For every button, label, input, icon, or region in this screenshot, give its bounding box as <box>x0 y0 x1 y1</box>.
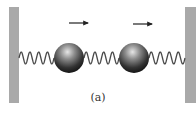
spring-left <box>19 52 54 64</box>
right-wall <box>185 7 196 103</box>
velocity-arrows <box>69 23 152 24</box>
mass-2 <box>119 43 149 73</box>
springs <box>19 52 185 64</box>
mass-1 <box>54 43 84 73</box>
figure-caption: (a) <box>0 91 196 104</box>
spring-middle <box>84 52 119 64</box>
spring-right <box>149 52 185 64</box>
left-wall <box>9 7 19 103</box>
